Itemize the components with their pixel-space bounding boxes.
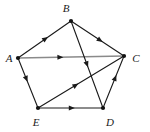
graph-edge-D-C [103,56,124,108]
graph-vertex-C [122,54,126,58]
arrowhead-icon-A-E [23,75,28,82]
graph-edge-E-C [38,56,124,108]
vertex-label-D: D [106,117,114,128]
graph-canvas [0,0,150,132]
graph-vertex-A [16,56,20,60]
arrowhead-icon-B-D [84,61,89,68]
vertex-label-A: A [6,53,13,64]
directed-graph-figure: ABCDE [0,0,150,132]
graph-edge-B-C [71,21,124,56]
graph-edge-A-E [18,58,38,108]
arrowhead-icon-E-D [69,105,75,110]
arrowhead-icon-E-C [72,84,78,89]
arrowhead-icon-D-C [112,75,117,82]
arrowhead-icon-A-B [42,37,48,43]
arrowhead-layer [23,36,117,110]
vertex-label-B: B [63,3,70,14]
arrowhead-icon-A-C [57,55,63,60]
graph-vertex-D [101,106,105,110]
graph-vertex-B [69,19,73,23]
arrowhead-icon-B-C [96,36,102,41]
edge-layer [18,21,124,108]
vertex-label-C: C [132,53,139,64]
graph-vertex-E [36,106,40,110]
graph-edge-A-C [18,56,124,58]
vertex-label-E: E [33,117,40,128]
